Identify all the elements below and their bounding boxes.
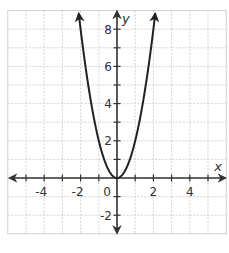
x-axis-label: x	[213, 159, 222, 174]
y-axis-label: y	[121, 11, 130, 26]
tick-labels: -4-2248642-20xy	[35, 11, 222, 223]
y-tick-label: 6	[104, 60, 112, 74]
parabola-right-branch	[117, 14, 155, 178]
parabola-graph: -4-2248642-20xy	[0, 0, 229, 253]
x-tick-label: 2	[150, 185, 158, 199]
y-tick-label: 8	[104, 23, 112, 37]
parabola-left-branch	[79, 14, 117, 178]
x-tick-label: -2	[72, 185, 84, 199]
origin-label: 0	[103, 185, 111, 199]
y-tick-label: 4	[104, 97, 112, 111]
y-tick-label: -2	[100, 209, 112, 223]
x-tick-label: 4	[186, 185, 194, 199]
x-tick-label: -4	[35, 185, 47, 199]
y-tick-label: 2	[104, 134, 112, 148]
